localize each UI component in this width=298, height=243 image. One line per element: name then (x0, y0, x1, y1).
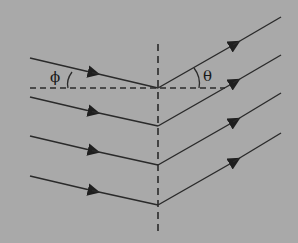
theta-angle-arc (194, 68, 199, 88)
ray-diagram: ϕ θ (0, 0, 298, 243)
ray-3 (30, 93, 281, 165)
theta-label: θ (203, 67, 212, 85)
ray-4 (30, 133, 281, 205)
phi-angle-arc (68, 72, 73, 88)
phi-label: ϕ (50, 68, 60, 86)
